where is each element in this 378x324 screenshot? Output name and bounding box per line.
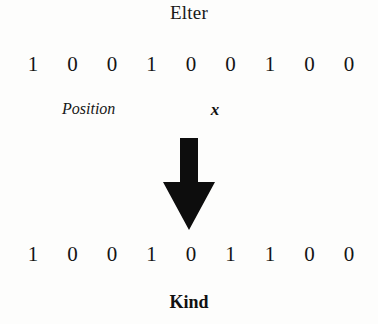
bit-row-after: 1 0 0 1 0 1 1 0 0	[22, 244, 360, 265]
bit-cell: 1	[22, 244, 44, 265]
bit-cell: 0	[62, 54, 84, 75]
figure-caption: Kind	[0, 292, 378, 313]
bit-cell: 0	[101, 54, 123, 75]
bit-cell: 0	[338, 244, 360, 265]
bit-cell: 0	[180, 54, 202, 75]
bit-cell: 1	[259, 54, 281, 75]
bit-cell: 0	[299, 244, 321, 265]
bit-cell: 1	[141, 54, 163, 75]
bit-cell: 1	[259, 244, 281, 265]
bit-cell: 0	[180, 244, 202, 265]
pointer-variable-label: x	[204, 100, 226, 120]
annotation-row: Position x	[22, 100, 360, 124]
bit-cell: 1	[220, 244, 242, 265]
bit-row-before: 1 0 0 1 0 0 1 0 0	[22, 54, 360, 75]
bit-cell: 0	[62, 244, 84, 265]
down-arrow-icon	[163, 138, 215, 234]
bit-cell: 0	[220, 54, 242, 75]
figure-title: Elter	[0, 2, 378, 24]
bit-cell: 1	[22, 54, 44, 75]
bit-cell: 0	[299, 54, 321, 75]
bit-flip-diagram: Elter 1 0 0 1 0 0 1 0 0 Position x 1 0 0…	[0, 0, 378, 324]
bit-cell: 0	[101, 244, 123, 265]
bit-cell: 0	[338, 54, 360, 75]
position-label: Position	[62, 100, 115, 118]
bit-cell: 1	[141, 244, 163, 265]
